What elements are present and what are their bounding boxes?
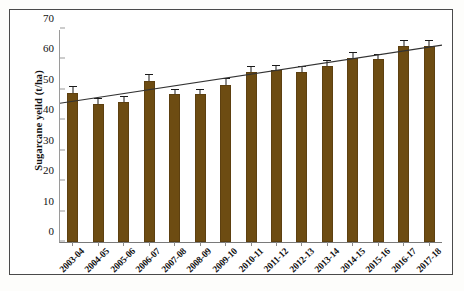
bar <box>246 72 257 242</box>
x-axis-tick-label: 2012-13 <box>287 246 315 274</box>
bar-slot <box>238 30 263 242</box>
y-axis-title: Sugarcane yeild (t/ha) <box>33 46 44 196</box>
bar-slot <box>391 30 416 242</box>
x-axis-tick-label: 2004-05 <box>83 246 111 274</box>
plot-area: 010203040506070 <box>59 30 442 243</box>
bar <box>220 85 231 242</box>
x-axis-tick-label: 2009-10 <box>211 246 239 274</box>
x-axis-tick-label: 2011-12 <box>262 246 290 274</box>
y-axis-tick-label: 50 <box>43 73 60 84</box>
y-axis-tick-label: 60 <box>43 43 60 54</box>
error-bar-cap-upper <box>94 98 102 99</box>
x-axis-tick-label: 2016-17 <box>389 246 417 274</box>
bar-slot <box>60 30 85 242</box>
bar <box>195 94 206 242</box>
y-axis-tick-mark <box>60 28 65 29</box>
bar <box>93 104 104 242</box>
error-bar-cap-upper <box>120 96 128 97</box>
x-axis-tick-label: 2005-06 <box>108 246 136 274</box>
figure-container: Sugarcane yeild (t/ha) 010203040506070 2… <box>0 0 464 291</box>
bar <box>322 66 333 242</box>
x-axis-tick-label: 2010-11 <box>236 246 264 274</box>
x-axis-tick-label: 2013-14 <box>313 246 341 274</box>
bar-slot <box>162 30 187 242</box>
y-axis-tick-label: 40 <box>43 104 60 115</box>
bar-slot <box>340 30 365 242</box>
x-axis-tick-label: 2017-18 <box>415 246 443 274</box>
bar <box>118 102 129 242</box>
x-axis-tick-label: 2006-07 <box>134 246 162 274</box>
bar-series <box>60 30 442 242</box>
x-axis-tick-label: 2008-09 <box>185 246 213 274</box>
y-axis-tick-label: 30 <box>43 134 60 145</box>
x-axis-tick-label: 2014-15 <box>338 246 366 274</box>
bar-slot <box>264 30 289 242</box>
x-axis-tick-label: 2007-08 <box>159 246 187 274</box>
bar <box>296 72 307 242</box>
bar <box>67 93 78 242</box>
bar <box>169 94 180 242</box>
error-bar-cap-upper <box>298 66 306 67</box>
bar-slot <box>111 30 136 242</box>
bar <box>398 46 409 242</box>
bar <box>424 46 435 242</box>
x-axis-tick-label: 2003-04 <box>57 246 85 274</box>
y-axis-tick-label: 70 <box>43 13 60 24</box>
error-bar-cap-upper <box>69 86 77 87</box>
y-axis-tick-label: 20 <box>43 165 60 176</box>
bar-slot <box>85 30 110 242</box>
bar-slot <box>366 30 391 242</box>
bar <box>144 81 155 242</box>
error-bar-cap-upper <box>145 74 153 75</box>
bar-slot <box>289 30 314 242</box>
bar <box>373 59 384 242</box>
x-axis-tick-label: 2015-16 <box>364 246 392 274</box>
bar-slot <box>417 30 442 242</box>
error-bar-cap-upper <box>425 40 433 41</box>
bar-slot <box>187 30 212 242</box>
bar <box>347 58 358 242</box>
error-bar-cap-upper <box>374 54 382 55</box>
bar-slot <box>136 30 161 242</box>
error-bar-cap-upper <box>272 65 280 66</box>
y-axis-tick-label: 10 <box>43 195 60 206</box>
x-axis-labels: 2003-042004-052005-062006-072007-082008-… <box>59 246 442 291</box>
error-bar-cap-upper <box>323 60 331 61</box>
bar-slot <box>315 30 340 242</box>
error-bar-cap-upper <box>400 40 408 41</box>
y-axis-tick-label: 0 <box>49 226 61 237</box>
figure-frame: Sugarcane yeild (t/ha) 010203040506070 2… <box>9 9 453 275</box>
error-bar-cap-upper <box>349 52 357 53</box>
error-bar-cap-upper <box>196 89 204 90</box>
error-bar-cap-upper <box>171 89 179 90</box>
bar-slot <box>213 30 238 242</box>
error-bar-cap-upper <box>222 78 230 79</box>
bar <box>271 70 282 242</box>
error-bar-cap-upper <box>247 66 255 67</box>
